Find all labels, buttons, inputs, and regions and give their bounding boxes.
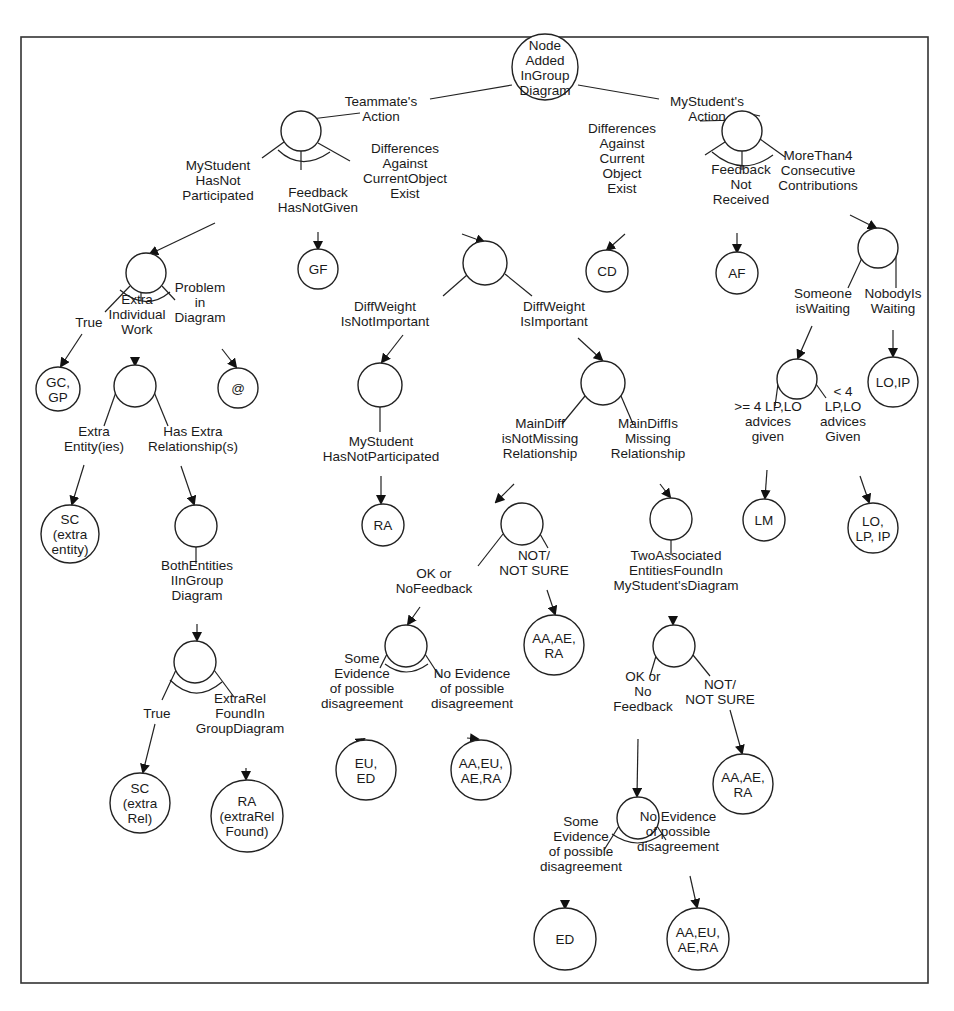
text-line: advices (745, 414, 791, 429)
text-line: Some (563, 814, 598, 829)
edge-label-l_true2: True (143, 706, 170, 721)
text-line: LO, (862, 514, 884, 529)
text-line: Relationship(s) (148, 439, 238, 454)
decision-node-n_two (653, 625, 695, 667)
leaf-node-ra2: RA(extraRelFound) (211, 780, 283, 852)
text-line: of possible (646, 824, 711, 839)
text-line: AA,EU, (676, 925, 720, 940)
text-line: of possible (549, 844, 614, 859)
text-line: NOT/ (518, 548, 550, 563)
text-line: True (143, 706, 170, 721)
text-line: Differences (588, 121, 656, 136)
text-line: ED (556, 932, 575, 947)
text-line: TwoAssociated (631, 548, 722, 563)
text-line: GroupDiagram (196, 721, 285, 736)
text-line: No Evidence (434, 666, 511, 681)
edge-label-l_dwi: DiffWeightIsImportant (520, 299, 588, 329)
text-line: Participated (182, 188, 253, 203)
text-line: NoFeedback (396, 581, 473, 596)
leaf-node-cd: CD (586, 250, 628, 292)
text-line: Consecutive (781, 163, 855, 178)
text-line: Given (825, 429, 860, 444)
node-circle (581, 361, 625, 405)
text-line: (extra (53, 527, 88, 542)
text-line: EntitiesFoundIn (629, 563, 723, 578)
edge-label-l_msnp2: MyStudentHasNotParticipated (323, 434, 439, 464)
leaf-node-aaaera1: AA,AE,RA (524, 615, 584, 675)
text-line: CD (597, 264, 617, 279)
text-line: Differences (371, 141, 439, 156)
text-line: Some (344, 651, 379, 666)
text-line: isWaiting (796, 301, 850, 316)
text-line: Current (599, 151, 644, 166)
text-line: Contributions (778, 178, 858, 193)
text-line: AA,AE, (721, 770, 765, 785)
decision-node-n_my (722, 111, 762, 151)
text-line: Work (121, 322, 153, 337)
edge-label-l_more4: MoreThan4ConsecutiveContributions (778, 148, 858, 193)
decision-node-n_extra (114, 365, 156, 407)
text-line: FoundIn (215, 706, 265, 721)
text-line: Diagram (519, 83, 570, 98)
text-line: HasNot (195, 173, 240, 188)
text-line: (extraRel (220, 809, 275, 824)
text-line: AA,EU, (459, 756, 503, 771)
text-line: Action (688, 109, 726, 124)
text-line: Added (525, 53, 564, 68)
text-line: OK or (416, 566, 452, 581)
text-line: Node (529, 38, 561, 53)
text-line: Extra (121, 292, 153, 307)
edge-label-l_twoassoc: TwoAssociatedEntitiesFoundInMyStudent'sD… (614, 548, 739, 593)
edge-label-l_someone: SomeoneisWaiting (794, 286, 852, 316)
text-line: entity) (52, 542, 89, 557)
edge-label-l_someev2: SomeEvidenceof possibledisagreement (540, 814, 622, 874)
text-line: RA (734, 785, 753, 800)
node-circle (358, 363, 402, 407)
text-line: HasNotParticipated (323, 449, 439, 464)
text-line: Against (599, 136, 644, 151)
text-line: MyStudent (186, 158, 251, 173)
text-line: LP,LO (825, 399, 862, 414)
decision-node-n_more4 (858, 228, 898, 268)
leaf-node-aaeuaera1: AA,EU,AE,RA (451, 740, 511, 800)
text-line: isNotMissing (502, 431, 579, 446)
text-line: SC (61, 512, 80, 527)
text-line: GP (48, 390, 68, 405)
text-line: Someone (794, 286, 852, 301)
text-line: RA (238, 794, 257, 809)
text-line: disagreement (540, 859, 622, 874)
text-line: Evidence (334, 666, 390, 681)
edge-label-l_fbnr: FeedbackNotReceived (711, 162, 771, 207)
text-line: NobodyIs (864, 286, 921, 301)
node-circle (114, 365, 156, 407)
edge-label-l_fb: FeedbackHasNotGiven (278, 185, 358, 215)
text-line: given (752, 429, 784, 444)
text-line: LP, IP (855, 529, 890, 544)
text-line: ExtraRel (214, 691, 266, 706)
node-circle (175, 505, 217, 547)
text-line: NOT SURE (499, 563, 569, 578)
text-line: Extra (78, 424, 110, 439)
edge-label-l_problem: ProbleminDiagram (174, 280, 225, 325)
text-line: RA (374, 518, 393, 533)
text-line: MainDiffIs (618, 416, 678, 431)
text-line: Has Extra (163, 424, 223, 439)
text-line: disagreement (321, 696, 403, 711)
text-line: BothEntities (161, 558, 233, 573)
text-line: True (75, 315, 102, 330)
text-line: MainDiff (515, 416, 565, 431)
text-line: AE,RA (461, 771, 502, 786)
text-line: Against (382, 156, 427, 171)
edge-label-l_msnp: MyStudentHasNotParticipated (182, 158, 253, 203)
node-circle (650, 498, 692, 540)
text-line: CurrentObject (363, 171, 447, 186)
text-line: (extra (123, 796, 158, 811)
text-line: GF (309, 262, 328, 277)
decision-node-n_both (174, 641, 216, 683)
decision-node-n_dwi (581, 361, 625, 405)
text-line: No Evidence (640, 809, 717, 824)
leaf-node-sc1: SC(extraentity) (41, 505, 99, 563)
node-circle (777, 359, 817, 399)
decision-node-n_msnp (126, 253, 166, 293)
edge-label-l_notsure1: NOT/NOT SURE (499, 548, 569, 578)
